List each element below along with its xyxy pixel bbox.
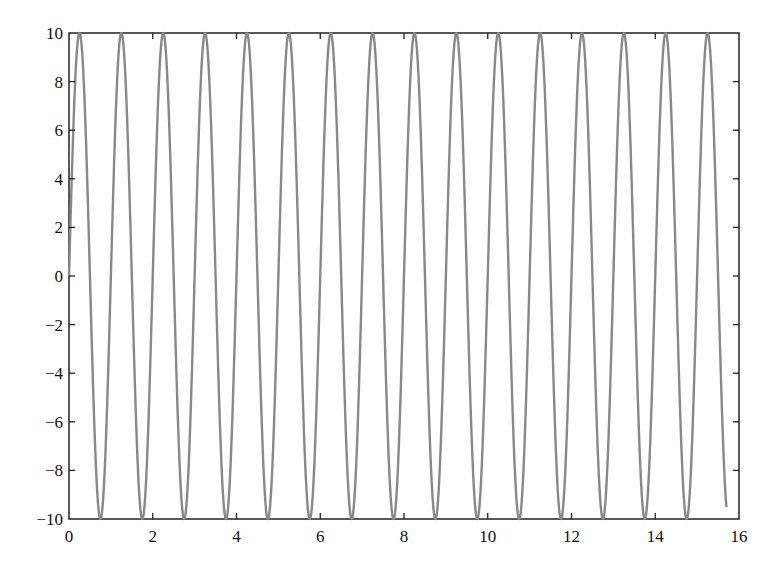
y-tick-label: 0 [55,267,64,286]
x-tick-label: 16 [731,527,748,546]
y-tick-label: −6 [45,413,63,432]
y-tick-label: 6 [55,121,64,140]
x-tick-label: 14 [647,527,665,546]
x-tick-label: 6 [316,527,325,546]
x-tick-label: 0 [65,527,74,546]
sine-wave-chart: 0246810121416 −10−8−6−4−20246810 [0,0,771,573]
y-tick-label: 10 [46,24,63,43]
y-tick-label: 4 [55,170,64,189]
x-tick-label: 12 [563,527,580,546]
x-tick-label: 2 [149,527,158,546]
x-axis: 0246810121416 [65,33,748,546]
y-tick-label: 8 [55,73,64,92]
y-tick-label: −4 [45,364,64,383]
sine-line-series [69,33,726,519]
x-tick-label: 4 [232,527,241,546]
x-tick-label: 10 [479,527,496,546]
y-tick-label: −8 [45,461,63,480]
y-tick-label: 2 [55,218,64,237]
series-layer [69,33,726,519]
y-tick-label: −2 [45,316,63,335]
x-tick-label: 8 [400,527,409,546]
y-tick-label: −10 [36,510,63,529]
